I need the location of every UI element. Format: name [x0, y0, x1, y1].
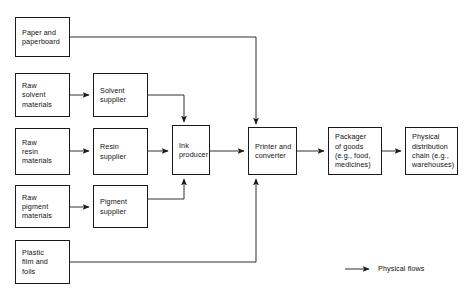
- node-label: Resin supplier: [100, 142, 126, 161]
- node-label: Printer and converter: [255, 142, 291, 161]
- node-physical-distribution-chain[interactable]: Physical distribution chain (e.g., wareh…: [405, 127, 458, 175]
- node-raw-resin-materials[interactable]: Raw resin materials: [15, 128, 70, 175]
- node-printer-and-converter[interactable]: Printer and converter: [248, 127, 297, 175]
- node-raw-pigment-materials[interactable]: Raw pigment materials: [15, 185, 70, 228]
- node-pigment-supplier[interactable]: Pigment supplier: [93, 185, 148, 228]
- node-label: Packager of goods (e.g., food, medicines…: [335, 132, 371, 169]
- node-label: Raw solvent materials: [22, 81, 52, 109]
- node-label: Paper and paperboard: [22, 28, 60, 47]
- node-packager-of-goods[interactable]: Packager of goods (e.g., food, medicines…: [328, 127, 382, 175]
- node-plastic-film-and-foils[interactable]: Plastic film and foils: [15, 240, 70, 284]
- edge-pigmentsupplier-to-ink: [148, 179, 184, 199]
- node-label: Solvent supplier: [100, 86, 126, 105]
- flowchart-canvas: Paper and paperboard Raw solvent materia…: [0, 0, 471, 298]
- node-label: Raw resin materials: [22, 138, 52, 166]
- node-ink-producer[interactable]: Ink producer: [172, 125, 210, 175]
- node-resin-supplier[interactable]: Resin supplier: [93, 128, 148, 175]
- flow-edges: [0, 0, 471, 298]
- node-solvent-supplier[interactable]: Solvent supplier: [93, 73, 148, 117]
- node-label: Raw pigment materials: [22, 193, 52, 221]
- node-label: Physical distribution chain (e.g., wareh…: [412, 132, 454, 169]
- edge-solventsupplier-to-ink: [148, 95, 184, 122]
- node-label: Plastic film and foils: [22, 248, 48, 276]
- node-raw-solvent-materials[interactable]: Raw solvent materials: [15, 73, 70, 117]
- node-paper-and-paperboard[interactable]: Paper and paperboard: [15, 17, 70, 57]
- node-label: Pigment supplier: [100, 197, 127, 216]
- node-label: Ink producer: [179, 141, 208, 160]
